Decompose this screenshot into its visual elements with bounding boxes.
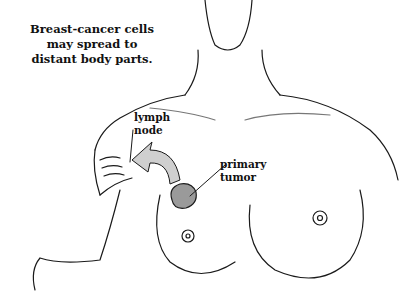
label-line: primary	[220, 158, 266, 171]
label-line: node	[134, 124, 170, 137]
label-line: tumor	[220, 171, 266, 184]
label-line: lymph	[134, 111, 170, 124]
caption-line: Breast-cancer cells	[22, 22, 162, 37]
illustration-canvas: Breast-cancer cells may spread to distan…	[0, 0, 404, 303]
caption-line: may spread to	[22, 37, 162, 52]
lymph-node-label: lymph node	[134, 111, 170, 137]
caption-text: Breast-cancer cells may spread to distan…	[22, 22, 162, 67]
caption-line: distant body parts.	[22, 52, 162, 67]
spread-arrow-icon	[132, 142, 180, 184]
primary-tumor-label: primary tumor	[220, 158, 266, 184]
